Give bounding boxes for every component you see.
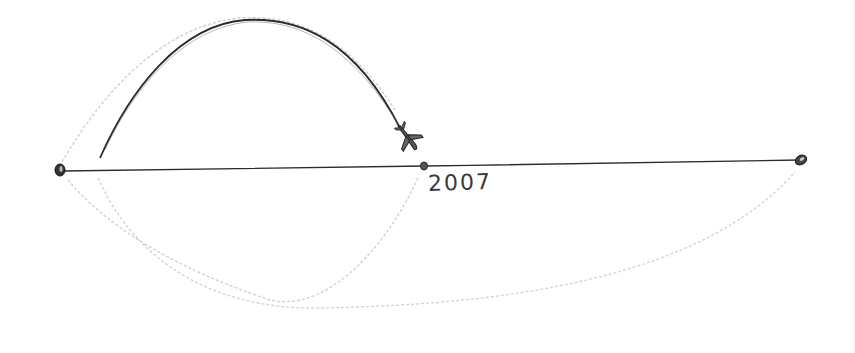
- dark-arc-upper: [100, 20, 400, 158]
- faint-arc-lower-left: [68, 178, 418, 302]
- airplane-icon: [390, 118, 427, 156]
- page-edge: [851, 0, 855, 353]
- timeline-line: [62, 160, 800, 171]
- year-label: 2007: [428, 169, 493, 196]
- mid-point: [421, 162, 428, 170]
- faint-arc-upper: [62, 18, 395, 162]
- sketch-canvas: 2007: [0, 0, 855, 353]
